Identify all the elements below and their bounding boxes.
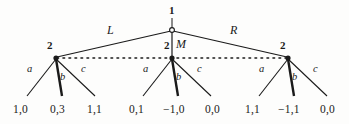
- player2-label-middle: 2: [164, 40, 170, 51]
- player2-label-right: 2: [280, 40, 286, 51]
- move-label-L: L: [107, 24, 114, 36]
- action-label-middle-c: c: [197, 64, 202, 75]
- edge-root-L: [57, 31, 171, 57]
- root-player-label: 1: [169, 5, 175, 16]
- decision-node-middle-player2: [169, 55, 174, 60]
- action-label-left-b: b: [60, 72, 65, 83]
- move-label-M: M: [176, 38, 186, 50]
- payoff-1: 1,0: [13, 104, 28, 116]
- action-label-left-c: c: [81, 64, 86, 75]
- decision-node-right-player2: [285, 55, 290, 60]
- payoff-7: 1,1: [245, 104, 260, 116]
- action-label-right-c: c: [313, 64, 318, 75]
- payoff-3: 1,1: [87, 104, 102, 116]
- payoff-9: 0,0: [320, 104, 335, 116]
- payoff-6: 0,0: [205, 104, 220, 116]
- payoff-2: 0,3: [50, 104, 65, 116]
- action-label-middle-a: a: [143, 64, 148, 75]
- action-label-middle-b: b: [176, 72, 181, 83]
- action-label-left-a: a: [27, 64, 32, 75]
- player2-label-left: 2: [47, 40, 53, 51]
- action-label-right-a: a: [259, 64, 264, 75]
- game-tree-figure: 1 2 2 2 L M R a b c a b c a b c 1,0 0,3 …: [0, 0, 349, 124]
- move-label-R: R: [230, 24, 237, 36]
- payoff-8: −1,1: [278, 104, 300, 116]
- decision-node-left-player2: [53, 55, 58, 60]
- payoff-5: −1,0: [163, 104, 185, 116]
- payoff-4: 0,1: [129, 104, 144, 116]
- action-label-right-b: b: [292, 72, 297, 83]
- root-node-player1: [170, 28, 175, 33]
